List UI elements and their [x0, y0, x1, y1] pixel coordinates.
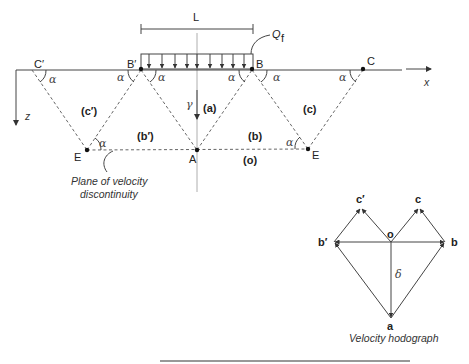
load-subscript: f	[281, 32, 285, 44]
region-c-label: (c)	[303, 103, 317, 115]
distributed-load: Q f	[141, 28, 285, 69]
annotation-leader	[104, 151, 113, 172]
point-c-prime-label: C′	[34, 58, 44, 70]
point-a-label: A	[189, 153, 197, 165]
angle-alpha-5: α	[273, 71, 281, 84]
angle-alpha-3: α	[158, 71, 166, 84]
angle-alpha-2: α	[117, 71, 125, 84]
load-width-label: L	[193, 11, 199, 23]
hodograph-c-label: c	[415, 193, 421, 205]
x-axis-label: x	[423, 76, 430, 88]
hodograph-c-prime-label: c′	[356, 193, 365, 205]
region-b-label: (b)	[248, 130, 262, 142]
angle-alpha-1: α	[49, 73, 57, 86]
region-o-label: (o)	[243, 154, 257, 166]
load-label: Q	[272, 28, 281, 40]
nodes	[85, 67, 365, 152]
region-b-prime-label: (b′)	[137, 130, 154, 142]
unit-weight-symbol: γ	[186, 98, 193, 111]
point-b-prime-label: B′	[127, 58, 136, 70]
annotation-line1: Plane of velocity	[71, 175, 148, 187]
velocity-hodograph	[334, 209, 445, 318]
angle-alpha-4: α	[228, 71, 236, 84]
hodograph-o-label: o	[387, 228, 394, 240]
point-e-right-label: E	[312, 149, 319, 161]
angle-alpha-6: α	[339, 71, 347, 84]
velocity-field-diagram: L Q f x z C′	[0, 0, 469, 364]
hodograph-b-prime-label: b′	[318, 236, 328, 248]
load-width-dimension: L	[141, 11, 253, 34]
angle-alpha-7: α	[99, 137, 107, 150]
region-c-prime-label: (c′)	[81, 105, 97, 117]
point-b-label: B	[256, 58, 263, 70]
point-c-label: C	[367, 55, 375, 67]
annotation-line2: discontinuity	[80, 188, 139, 200]
angle-alpha-8: α	[286, 136, 294, 149]
hodograph-a-label: a	[387, 320, 394, 332]
point-e-left-label: E	[74, 151, 81, 163]
region-a-label: (a)	[203, 102, 217, 114]
hodograph-title: Velocity hodograph	[349, 332, 439, 344]
z-axis-label: z	[24, 110, 31, 122]
hodograph-delta-label: δ	[395, 268, 402, 281]
hodograph-b-label: b	[451, 236, 458, 248]
